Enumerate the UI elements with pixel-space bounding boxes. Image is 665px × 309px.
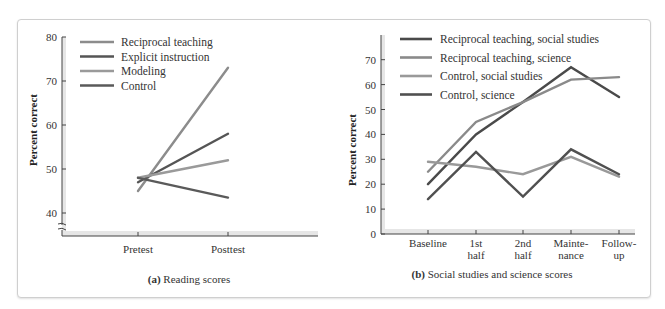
y-tick-label: 70 [365,54,377,66]
series-line [138,178,228,198]
caption-a: (a) Reading scores [148,273,230,286]
panel-b: 010203040506070Baseline1sthalf2ndhalfMai… [346,33,637,281]
y-tick-label: 50 [365,104,377,116]
y-tick-label: 80 [46,31,58,43]
y-tick-label: 50 [46,163,58,175]
x-tick-label: 1st [470,237,483,249]
reading-scores-chart: 4050607080PretestPosttestPercent correct… [0,0,665,309]
panel-a: 4050607080PretestPosttestPercent correct… [27,31,318,286]
y-tick-label: 40 [46,207,58,219]
legend-label: Control, social studies [440,70,543,83]
y-axis-shade [62,37,66,236]
y-tick-label: 60 [365,79,377,91]
y-tick-label: 20 [365,178,377,190]
y-tick-label: 0 [371,228,377,240]
y-tick-label: 30 [365,153,377,165]
y-tick-label: 60 [46,119,58,131]
y-tick-label: 10 [365,203,377,215]
x-axis-shade [381,229,635,234]
x-tick-label: Mainte- [554,237,589,249]
series-line [138,160,228,178]
legend-label: Control, science [440,89,515,102]
x-tick-label: up [614,249,626,261]
legend-label: Reciprocal teaching, social studies [440,33,600,46]
y-tick-label: 40 [365,128,377,140]
x-tick-label: nance [558,249,584,261]
x-tick-label: Pretest [123,243,153,255]
x-tick-label: 2nd [515,237,532,249]
x-tick-label: Baseline [409,237,447,249]
series-line [428,67,619,184]
x-tick-label: half [514,249,531,261]
y-axis-label: Percent correct [346,114,358,186]
legend-label: Reciprocal teaching, science [440,52,571,65]
x-tick-label: half [467,249,484,261]
x-axis-shade [62,231,318,236]
caption-b: (b) Social studies and science scores [412,268,573,281]
y-tick-label: 70 [46,75,58,87]
y-axis-label: Percent correct [27,94,39,166]
x-tick-label: Follow- [602,237,637,249]
legend-label: Control [121,80,156,92]
legend-label: Modeling [121,65,166,78]
legend-label: Reciprocal teaching [121,36,213,49]
x-tick-label: Posttest [211,243,245,255]
legend-label: Explicit instruction [121,51,210,64]
